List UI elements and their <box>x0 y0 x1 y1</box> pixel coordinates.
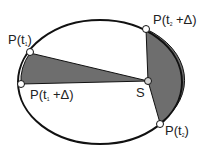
point-p-t2 <box>157 121 164 128</box>
point-p-t1 <box>27 49 34 56</box>
label-p-t1: P(t1) <box>8 33 32 47</box>
label-sun: S <box>136 86 145 99</box>
label-p-t2: P(t2) <box>165 124 189 138</box>
label-p-t1-delta: P(t1 +Δ) <box>30 88 74 102</box>
point-p-t1-delta <box>18 81 25 88</box>
sun-point <box>145 78 152 85</box>
point-p-t2-delta <box>143 26 150 33</box>
label-p-t2-delta: P(t2 +Δ) <box>153 13 197 27</box>
sector-left <box>21 53 148 84</box>
